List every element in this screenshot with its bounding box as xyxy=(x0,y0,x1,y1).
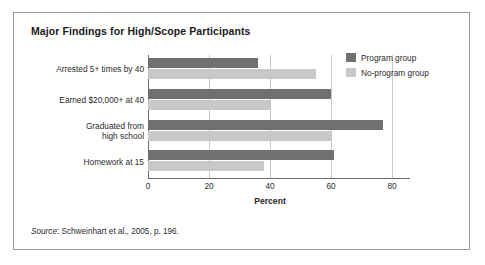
x-tick-40: 40 xyxy=(265,181,274,191)
source-label: Source xyxy=(31,227,57,236)
bar-noprogram xyxy=(148,100,270,110)
bar-noprogram xyxy=(148,131,331,141)
x-axis-title: Percent xyxy=(148,196,392,206)
x-tick-0: 0 xyxy=(146,181,151,191)
x-tick-80: 80 xyxy=(387,181,396,191)
category-label-line: Arrested 5+ times by 40 xyxy=(16,64,144,74)
bar-noprogram xyxy=(148,161,264,171)
x-tick-60: 60 xyxy=(326,181,335,191)
category-label-line: Earned $20,000+ at 40 xyxy=(16,95,144,105)
source-note: Source: Schweinhart et al., 2005, p. 196… xyxy=(31,227,179,236)
category-label: Earned $20,000+ at 40 xyxy=(16,95,144,105)
category-axis-labels: Arrested 5+ times by 40Earned $20,000+ a… xyxy=(14,55,144,178)
source-citation: : Schweinhart et al., 2005, p. 196. xyxy=(57,227,179,236)
legend-swatch-icon xyxy=(346,53,356,62)
bar-program xyxy=(148,89,331,99)
bar-group xyxy=(148,120,392,144)
bar-program xyxy=(148,58,258,68)
x-tick-20: 20 xyxy=(204,181,213,191)
chart-legend: Program groupNo-program group xyxy=(346,51,429,81)
figure-frame: Major Findings for High/Scope Participan… xyxy=(13,12,470,250)
category-label-line: high school xyxy=(16,131,144,141)
bar-program xyxy=(148,120,383,130)
legend-item: No-program group xyxy=(346,66,429,79)
legend-label: No-program group xyxy=(361,68,429,78)
bar-program xyxy=(148,150,334,160)
legend-swatch-icon xyxy=(346,68,356,77)
category-label: Graduated fromhigh school xyxy=(16,121,144,141)
bar-noprogram xyxy=(148,69,316,79)
legend-item: Program group xyxy=(346,51,429,64)
category-label: Homework at 15 xyxy=(16,157,144,167)
legend-label: Program group xyxy=(361,53,416,63)
page-title: Major Findings for High/Scope Participan… xyxy=(31,25,250,37)
category-label: Arrested 5+ times by 40 xyxy=(16,64,144,74)
bar-group xyxy=(148,150,392,174)
x-axis-tick-labels: 020406080 xyxy=(148,181,410,195)
category-label-line: Graduated from xyxy=(16,121,144,131)
x-axis-line xyxy=(148,178,410,179)
bar-group xyxy=(148,89,392,113)
category-label-line: Homework at 15 xyxy=(16,157,144,167)
